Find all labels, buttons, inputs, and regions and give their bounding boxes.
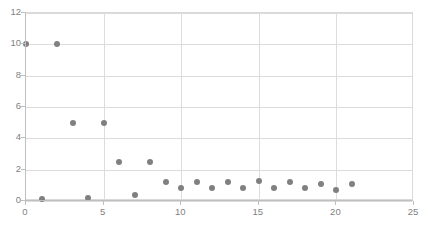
x-tick-mark-25 xyxy=(413,201,414,205)
x-tick-mark-0 xyxy=(25,201,26,205)
x-axis-tick-labels: 0510152025 xyxy=(0,0,426,225)
x-tick-label-25: 25 xyxy=(401,206,425,217)
scatter-chart: 024681012 0510152025 xyxy=(0,0,426,225)
x-tick-mark-5 xyxy=(103,201,104,205)
x-tick-label-5: 5 xyxy=(91,206,115,217)
x-tick-label-20: 20 xyxy=(323,206,347,217)
x-tick-mark-10 xyxy=(180,201,181,205)
x-tick-mark-15 xyxy=(258,201,259,205)
x-tick-label-15: 15 xyxy=(246,206,270,217)
x-tick-label-10: 10 xyxy=(168,206,192,217)
x-tick-label-0: 0 xyxy=(13,206,37,217)
x-tick-mark-20 xyxy=(335,201,336,205)
